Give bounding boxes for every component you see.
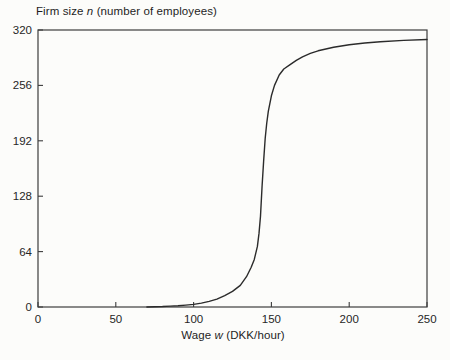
plot-frame [38,30,427,307]
x-axis-title-variable: w [215,329,223,341]
plot-svg: 064128192256320050100150200250 [0,0,450,360]
y-tick-label: 256 [13,79,32,91]
y-tick-label: 192 [13,135,32,147]
firm-size-curve [147,40,427,308]
x-tick-label: 250 [417,313,436,325]
x-tick-label: 200 [340,313,359,325]
x-axis-title: Wage w (DKK/hour) [181,329,285,341]
firm-size-wage-chart: Firm size n (number of employees) 064128… [0,0,450,360]
y-tick-label: 320 [13,24,32,36]
x-tick-label: 50 [109,313,122,325]
y-tick-label: 64 [19,246,32,258]
x-tick-label: 0 [35,313,41,325]
figure-page: Firm size n (number of employees) 064128… [0,0,450,360]
x-axis-title-suffix: (DKK/hour) [223,329,285,341]
x-axis-title-prefix: Wage [181,329,214,341]
x-tick-label: 100 [184,313,203,325]
x-tick-label: 150 [262,313,281,325]
y-tick-label: 0 [26,301,32,313]
y-tick-label: 128 [13,190,32,202]
